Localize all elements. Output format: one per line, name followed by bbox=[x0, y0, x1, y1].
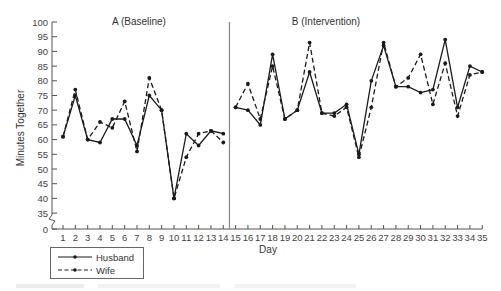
x-axis: 1234567891011121314151617181920212223242… bbox=[52, 225, 488, 243]
svg-text:25: 25 bbox=[354, 232, 365, 243]
svg-text:70: 70 bbox=[37, 105, 48, 116]
svg-text:65: 65 bbox=[37, 119, 48, 130]
svg-text:75: 75 bbox=[37, 90, 48, 101]
svg-text:3: 3 bbox=[85, 232, 90, 243]
svg-text:13: 13 bbox=[206, 232, 217, 243]
svg-text:33: 33 bbox=[452, 232, 463, 243]
svg-text:32: 32 bbox=[440, 232, 451, 243]
figure-caption-faded bbox=[16, 284, 356, 288]
svg-text:20: 20 bbox=[292, 232, 303, 243]
svg-text:34: 34 bbox=[465, 232, 476, 243]
svg-text:45: 45 bbox=[37, 178, 48, 189]
svg-text:29: 29 bbox=[403, 232, 414, 243]
svg-text:15: 15 bbox=[230, 232, 241, 243]
svg-text:35: 35 bbox=[37, 208, 48, 219]
svg-text:10: 10 bbox=[169, 232, 180, 243]
svg-text:30: 30 bbox=[415, 232, 426, 243]
svg-text:4: 4 bbox=[97, 232, 102, 243]
svg-text:7: 7 bbox=[134, 232, 139, 243]
legend-label-husband: Husband bbox=[96, 252, 134, 263]
x-axis-title: Day bbox=[259, 244, 277, 255]
svg-text:2: 2 bbox=[73, 232, 78, 243]
svg-text:12: 12 bbox=[193, 232, 204, 243]
svg-text:90: 90 bbox=[37, 46, 48, 57]
svg-text:9: 9 bbox=[159, 232, 164, 243]
svg-text:95: 95 bbox=[37, 31, 48, 42]
svg-text:31: 31 bbox=[428, 232, 439, 243]
legend-item-husband: Husband bbox=[57, 251, 134, 263]
y-axis: 035404550556065707580859095100 bbox=[32, 17, 57, 235]
svg-text:21: 21 bbox=[304, 232, 315, 243]
y-axis-title: Minutes Together bbox=[15, 89, 26, 166]
svg-text:40: 40 bbox=[37, 193, 48, 204]
svg-text:11: 11 bbox=[181, 232, 191, 243]
svg-text:28: 28 bbox=[391, 232, 402, 243]
svg-text:18: 18 bbox=[267, 232, 278, 243]
svg-text:85: 85 bbox=[37, 61, 48, 72]
data-series bbox=[61, 38, 484, 201]
svg-text:60: 60 bbox=[37, 134, 48, 145]
svg-text:50: 50 bbox=[37, 164, 48, 175]
svg-text:55: 55 bbox=[37, 149, 48, 160]
svg-text:26: 26 bbox=[366, 232, 377, 243]
svg-text:6: 6 bbox=[122, 232, 127, 243]
svg-text:23: 23 bbox=[329, 232, 340, 243]
phase-b-title: B (Intervention) bbox=[292, 16, 360, 27]
svg-text:5: 5 bbox=[110, 232, 115, 243]
svg-text:19: 19 bbox=[280, 232, 291, 243]
svg-text:17: 17 bbox=[255, 232, 266, 243]
svg-text:80: 80 bbox=[37, 75, 48, 86]
svg-text:100: 100 bbox=[32, 17, 48, 28]
svg-text:22: 22 bbox=[317, 232, 328, 243]
svg-text:16: 16 bbox=[243, 232, 254, 243]
dashed-line-marker-icon bbox=[57, 266, 93, 274]
svg-text:8: 8 bbox=[147, 232, 152, 243]
svg-text:24: 24 bbox=[341, 232, 352, 243]
chart-legend: Husband Wife bbox=[50, 247, 144, 279]
svg-text:14: 14 bbox=[218, 232, 229, 243]
svg-text:27: 27 bbox=[378, 232, 389, 243]
svg-text:0: 0 bbox=[43, 224, 48, 235]
legend-label-wife: Wife bbox=[96, 265, 115, 276]
phase-a-title: A (Baseline) bbox=[112, 16, 166, 27]
svg-text:1: 1 bbox=[60, 232, 65, 243]
legend-item-wife: Wife bbox=[57, 264, 115, 276]
svg-text:35: 35 bbox=[477, 232, 488, 243]
solid-line-marker-icon bbox=[57, 253, 93, 261]
